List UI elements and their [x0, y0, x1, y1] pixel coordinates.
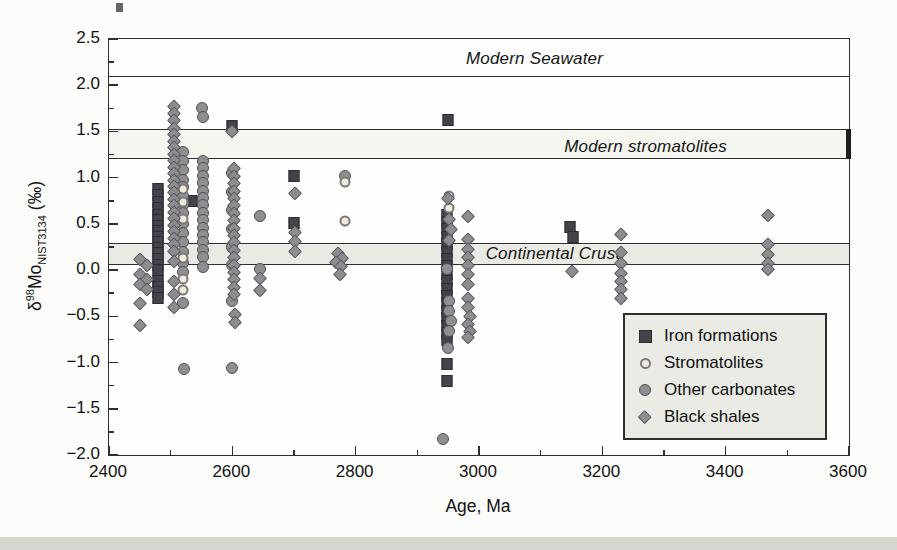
- figure-page: Modern SeawaterModern stromatolitesConti…: [0, 0, 897, 550]
- legend-label-other-carbonates: Other carbonates: [664, 380, 795, 400]
- point-black-shales: [761, 208, 774, 221]
- x-tick-label: 3400: [706, 462, 744, 482]
- point-black-shales: [167, 274, 180, 287]
- y-tick-label: −0.5: [52, 305, 100, 325]
- x-tick-label: 2600: [212, 462, 250, 482]
- legend-marker-iron-formations-icon: [637, 328, 653, 344]
- page-footer-strip: [0, 537, 897, 550]
- point-black-shales: [565, 264, 578, 277]
- legend-item-other-carbonates: Other carbonates: [637, 380, 813, 400]
- point-black-shales: [228, 315, 241, 328]
- y-tick-label: 0.0: [52, 259, 100, 279]
- point-black-shales: [461, 277, 474, 290]
- point-black-shales: [253, 284, 266, 297]
- legend-label-iron-formations: Iron formations: [664, 326, 777, 346]
- y-axis-title: δ98MoNIST3134(‰): [24, 181, 47, 311]
- y-axis-title-unit: (‰): [25, 181, 45, 210]
- y-tick-label: 1.0: [52, 167, 100, 187]
- stromatolites-icon: [640, 358, 651, 369]
- legend-item-stromatolites: Stromatolites: [637, 353, 813, 373]
- legend: Iron formationsStromatolitesOther carbon…: [623, 313, 827, 440]
- other-carbonates-icon: [639, 384, 651, 396]
- y-tick-label: 0.5: [52, 213, 100, 233]
- y-tick-label: −2.0: [52, 444, 100, 464]
- point-black-shales: [226, 125, 239, 138]
- x-tick-label: 3200: [582, 462, 620, 482]
- legend-label-stromatolites: Stromatolites: [664, 353, 763, 373]
- y-axis-title-isotope: 98: [24, 289, 36, 301]
- y-tick-label: −1.0: [52, 352, 100, 372]
- x-tick-label: 2400: [89, 462, 127, 482]
- point-black-shales: [167, 300, 180, 313]
- point-black-shales: [441, 191, 454, 204]
- point-black-shales: [289, 244, 302, 257]
- point-black-shales: [133, 297, 146, 310]
- point-black-shales: [461, 209, 474, 222]
- y-axis-title-element: Mo: [25, 265, 45, 289]
- x-tick-label: 2800: [336, 462, 374, 482]
- y-tick-label: 2.0: [52, 74, 100, 94]
- y-axis-title-delta: δ: [25, 301, 45, 311]
- x-tick-label: 3600: [829, 462, 867, 482]
- legend-marker-stromatolites-icon: [637, 355, 653, 371]
- legend-item-iron-formations: Iron formations: [637, 326, 813, 346]
- legend-marker-black-shales-icon: [637, 409, 653, 425]
- iron-formations-icon: [639, 330, 652, 343]
- point-black-shales: [444, 222, 457, 235]
- x-tick-label: 3000: [459, 462, 497, 482]
- y-tick-label: −1.5: [52, 398, 100, 418]
- legend-marker-other-carbonates-icon: [637, 382, 653, 398]
- y-axis-title-standard: NIST3134: [36, 215, 48, 265]
- legend-item-black-shales: Black shales: [637, 407, 813, 427]
- point-black-shales: [289, 187, 302, 200]
- point-black-shales: [133, 318, 146, 331]
- point-black-shales: [614, 291, 627, 304]
- y-tick-label: 1.5: [52, 120, 100, 140]
- point-black-shales: [614, 227, 627, 240]
- legend-label-black-shales: Black shales: [664, 407, 759, 427]
- point-black-shales: [443, 233, 456, 246]
- point-black-shales: [167, 287, 180, 300]
- y-tick-label: 2.5: [52, 28, 100, 48]
- black-shales-icon: [638, 410, 651, 423]
- x-axis-title: Age, Ma: [445, 496, 510, 517]
- point-black-shales: [167, 254, 180, 267]
- chart: Modern SeawaterModern stromatolitesConti…: [0, 0, 897, 550]
